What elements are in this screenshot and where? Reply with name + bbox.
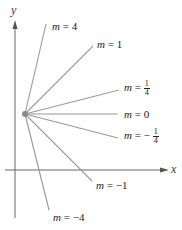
y-axis — [13, 20, 18, 218]
label-var: m — [53, 211, 61, 223]
label-m-1: m = 1 — [97, 39, 122, 50]
line-m-neg-4 — [25, 114, 49, 210]
label-value: −4 — [73, 211, 85, 223]
label-var: m — [96, 179, 104, 191]
slope-diagram — [0, 0, 182, 230]
line-m-1 — [25, 46, 93, 114]
common-point — [22, 111, 28, 117]
label-m-0: m = 0 — [124, 109, 149, 120]
label-var: m — [97, 38, 105, 50]
line-m-4 — [25, 24, 46, 114]
fraction: 1 4 — [153, 128, 159, 145]
label-value: 0 — [144, 108, 150, 120]
x-axis-arrow-icon — [160, 168, 169, 173]
y-axis-label: y — [11, 3, 16, 18]
line-m-neg-quarter — [25, 114, 118, 138]
label-var: m — [124, 129, 132, 141]
line-m-quarter — [25, 90, 119, 114]
label-var: m — [124, 81, 132, 93]
label-var: m — [124, 108, 132, 120]
line-m-neg-1 — [25, 114, 92, 181]
label-sign: − — [144, 129, 150, 141]
label-m-quarter: m = 1 4 — [124, 80, 150, 97]
label-m-neg-1: m = −1 — [96, 180, 127, 191]
label-value: 1 — [117, 38, 123, 50]
label-value: 4 — [72, 20, 78, 32]
x-axis — [5, 168, 169, 173]
label-var: m — [52, 20, 60, 32]
label-m-neg-4: m = −4 — [53, 212, 84, 223]
label-value: −1 — [116, 179, 128, 191]
label-m-neg-quarter: m = − 1 4 — [124, 128, 159, 145]
fraction: 1 4 — [144, 80, 150, 97]
x-axis-label: x — [171, 162, 176, 177]
label-m-4: m = 4 — [52, 21, 77, 32]
y-axis-arrow-icon — [13, 20, 18, 29]
